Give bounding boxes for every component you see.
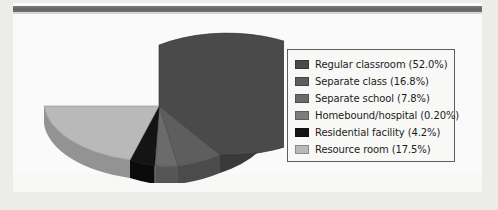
swatch-homebound-hospital bbox=[295, 111, 309, 120]
pie-wall-homebound-hospital bbox=[155, 166, 156, 183]
pie-wall-separate-school bbox=[156, 166, 178, 183]
pie-chart-screenshot: Regular classroom (52.0%) Separate class… bbox=[0, 0, 498, 210]
swatch-separate-class bbox=[295, 77, 309, 86]
swatch-regular-classroom bbox=[295, 60, 309, 69]
swatch-resource-room bbox=[295, 145, 309, 154]
legend: Regular classroom (52.0%) Separate class… bbox=[287, 49, 455, 162]
legend-item-regular-classroom: Regular classroom (52.0%) bbox=[295, 56, 454, 73]
legend-label-resource-room: Resource room (17.5%) bbox=[315, 144, 431, 155]
legend-item-separate-school: Separate school (7.8%) bbox=[295, 90, 454, 107]
legend-item-homebound-hospital: Homebound/hospital (0.20%) bbox=[295, 107, 454, 124]
legend-label-residential-facility: Residential facility (4.2%) bbox=[315, 127, 440, 138]
pie-chart bbox=[34, 28, 284, 183]
legend-label-separate-class: Separate class (16.8%) bbox=[315, 76, 429, 87]
swatch-residential-facility bbox=[295, 128, 309, 137]
legend-label-regular-classroom: Regular classroom (52.0%) bbox=[315, 59, 447, 70]
legend-item-residential-facility: Residential facility (4.2%) bbox=[295, 124, 454, 141]
legend-label-homebound-hospital: Homebound/hospital (0.20%) bbox=[315, 110, 459, 121]
pie-chart-svg bbox=[34, 28, 284, 183]
legend-item-separate-class: Separate class (16.8%) bbox=[295, 73, 454, 90]
top-rule-shadow bbox=[13, 12, 482, 14]
legend-label-separate-school: Separate school (7.8%) bbox=[315, 93, 430, 104]
legend-item-resource-room: Resource room (17.5%) bbox=[295, 141, 454, 158]
swatch-separate-school bbox=[295, 94, 309, 103]
